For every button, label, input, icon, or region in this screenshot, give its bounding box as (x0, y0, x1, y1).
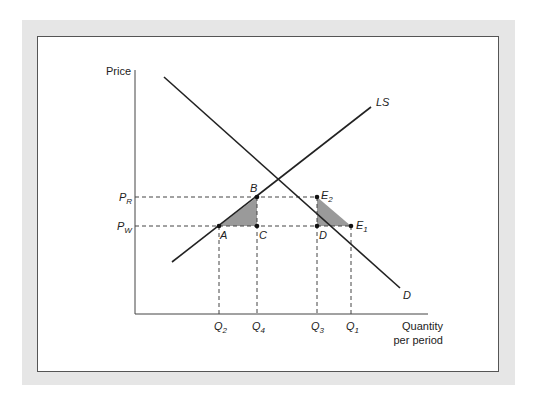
quantity-q1-label: Q1 (346, 320, 359, 335)
label-b: B (250, 182, 257, 194)
quantity-q4-label: Q4 (252, 320, 266, 335)
price-pr-label: PR (119, 191, 132, 206)
label-c: C (259, 229, 267, 241)
y-axis-label: Price (106, 65, 131, 77)
shaded-triangle-e2de1 (317, 197, 351, 226)
label-e1: E1 (356, 219, 368, 234)
x-axis-label-line1: Quantity (402, 320, 443, 332)
label-d: D (319, 229, 327, 241)
point-a (217, 224, 222, 229)
quantity-q2-label: Q2 (214, 320, 228, 335)
point-e1 (349, 224, 354, 229)
demand-curve (164, 77, 400, 288)
point-b (255, 195, 260, 200)
point-d (315, 224, 320, 229)
demand-curve-label: D (403, 289, 411, 301)
label-a: A (219, 229, 227, 241)
supply-demand-diagram: Price Quantity per period LS D PR PW A B… (0, 0, 542, 404)
supply-curve-label: LS (376, 96, 390, 108)
quantity-q3-label: Q3 (311, 320, 325, 335)
x-axis-label-line2: per period (393, 334, 443, 346)
supply-curve-ls (172, 107, 371, 262)
label-e2: E2 (321, 189, 333, 204)
price-pw-label: PW (117, 220, 133, 235)
point-e2 (315, 195, 320, 200)
point-c (255, 224, 260, 229)
